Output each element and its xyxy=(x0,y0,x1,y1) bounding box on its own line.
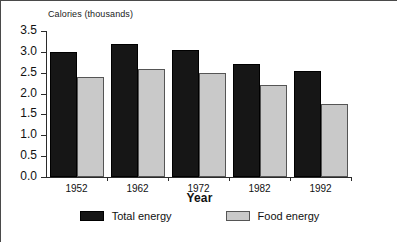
y-axis-tick: 0.0 xyxy=(41,177,46,178)
x-axis-tick xyxy=(229,177,230,181)
bar-total-energy xyxy=(294,71,321,177)
bar-group xyxy=(111,31,165,177)
y-axis-tick-label: 3.5 xyxy=(20,23,37,37)
y-axis-tick-label: 3.0 xyxy=(20,44,37,58)
legend-label: Food energy xyxy=(258,210,320,222)
bar-food-energy xyxy=(77,77,104,177)
y-axis-tick-label: 2.5 xyxy=(20,65,37,79)
bar-group xyxy=(172,31,226,177)
bar-food-energy xyxy=(138,69,165,177)
y-axis-tick: 0.5 xyxy=(41,156,46,157)
bar-group xyxy=(233,31,287,177)
x-axis-tick xyxy=(168,177,169,181)
bar-total-energy xyxy=(233,64,260,177)
y-axis-tick: 3.5 xyxy=(41,31,46,32)
chart-title: Calories (thousands) xyxy=(48,9,133,19)
y-axis-tick-label: 2.0 xyxy=(20,86,37,100)
y-axis-tick-label: 1.5 xyxy=(20,106,37,120)
legend-swatch-food-energy xyxy=(226,211,250,221)
x-axis-tick xyxy=(290,177,291,181)
bar-food-energy xyxy=(260,85,287,177)
y-axis-tick-label: 0.5 xyxy=(20,148,37,162)
bar-group xyxy=(50,31,104,177)
y-axis-tick: 2.5 xyxy=(41,73,46,74)
x-axis-tick xyxy=(107,177,108,181)
bar-group xyxy=(294,31,348,177)
bar-total-energy xyxy=(50,52,77,177)
chart-legend: Total energyFood energy xyxy=(1,210,397,222)
y-axis-tick: 3.0 xyxy=(41,52,46,53)
y-axis-tick-label: 1.0 xyxy=(20,127,37,141)
legend-item: Food energy xyxy=(226,210,320,222)
legend-swatch-total-energy xyxy=(80,211,104,221)
bar-total-energy xyxy=(111,44,138,177)
plot-area: 3.53.02.52.01.51.00.50.0 195219621972198… xyxy=(46,31,351,177)
y-axis-tick-label: 0.0 xyxy=(20,169,37,183)
bar-total-energy xyxy=(172,50,199,177)
bar-food-energy xyxy=(321,104,348,177)
bar-food-energy xyxy=(199,73,226,177)
legend-label: Total energy xyxy=(112,210,172,222)
y-axis-tick: 1.5 xyxy=(41,114,46,115)
x-axis-tick xyxy=(351,177,352,181)
y-axis-line xyxy=(46,31,47,178)
x-axis-line xyxy=(46,177,351,178)
legend-item: Total energy xyxy=(80,210,172,222)
y-axis-tick: 1.0 xyxy=(41,135,46,136)
x-axis-title: Year xyxy=(1,191,397,205)
chart-figure: Calories (thousands) 3.53.02.52.01.51.00… xyxy=(0,0,397,242)
y-axis-tick: 2.0 xyxy=(41,94,46,95)
